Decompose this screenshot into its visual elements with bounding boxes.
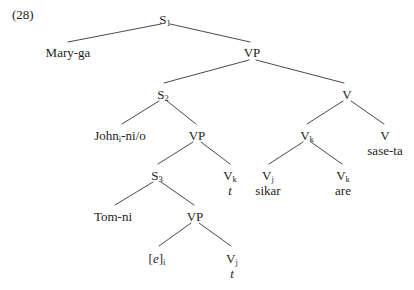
node-terminal-v-sase: sase-ta — [367, 144, 402, 159]
tree-edge-s3-to-vp3 — [161, 182, 194, 205]
node-label-vp3: VP — [187, 209, 204, 224]
tree-edge-v-top-to-v-sase — [351, 101, 384, 124]
tree-node-john: Johni-ni/o — [94, 129, 146, 144]
node-label-empty-e: [e]i — [149, 251, 166, 266]
node-label-vk-mid: Vk — [300, 128, 314, 143]
tree-node-vk-trace: Vkt — [223, 169, 237, 199]
syntax-tree-figure: (28) S1Mary-gaVPS2VJohni-ni/oVPVkVsase-t… — [0, 0, 414, 290]
node-subscript-vk-trace: k — [233, 174, 237, 184]
node-label-vj-sikar: Vj — [262, 168, 274, 183]
node-subscript-s3: 3 — [158, 174, 162, 184]
node-terminal-vk-are: are — [335, 184, 351, 199]
node-label-v-sase: V — [380, 128, 389, 143]
node-label-vk-trace: Vk — [223, 168, 237, 183]
node-label-v-top: V — [342, 87, 351, 102]
tree-node-v-sase: Vsase-ta — [367, 129, 402, 158]
tree-node-v-top: V — [342, 88, 351, 103]
tree-node-vk-mid: Vk — [300, 129, 314, 144]
tree-edge-s2-to-vp2 — [167, 101, 196, 124]
tree-node-empty-e: [e]i — [149, 252, 166, 267]
node-suffix-john: -ni/o — [121, 128, 146, 143]
node-label-vp1: VP — [244, 45, 261, 60]
tree-edge-vp1-to-s2 — [164, 60, 249, 83]
tree-edge-s3-to-tom — [115, 182, 153, 205]
tree-edge-vp2-to-s3 — [158, 142, 193, 164]
node-label-vp2: VP — [189, 128, 206, 143]
tree-edge-vp3-to-vj-trace — [199, 223, 231, 246]
node-label-tom: Tom-ni — [94, 209, 132, 224]
node-subscript-vk-mid: k — [310, 134, 314, 144]
tree-edge-v-top-to-vk-mid — [307, 101, 343, 124]
node-subscript-vj-trace: j — [236, 257, 238, 267]
tree-edge-vp1-to-v-top — [256, 60, 344, 83]
node-label-john: Johni-ni/o — [94, 128, 146, 143]
node-label-s2: S2 — [157, 87, 168, 102]
node-subscript-empty-e: i — [163, 257, 165, 267]
tree-node-mary: Mary-ga — [46, 46, 91, 61]
node-terminal-vj-sikar: sikar — [255, 184, 280, 199]
tree-node-tom: Tom-ni — [94, 210, 132, 225]
node-subscript-vj-sikar: j — [272, 174, 274, 184]
tree-branch-lines — [0, 0, 414, 290]
tree-edge-s1-to-vp1 — [170, 24, 250, 42]
tree-node-s1: S1 — [159, 13, 170, 28]
example-number: (28) — [12, 7, 34, 23]
node-label-vk-are: Vk — [336, 168, 350, 183]
node-label-s1: S1 — [159, 12, 170, 27]
tree-node-s2: S2 — [157, 88, 168, 103]
node-subscript-vk-are: k — [346, 174, 350, 184]
tree-node-vp3: VP — [187, 210, 204, 225]
node-label-s3: S3 — [151, 168, 162, 183]
tree-edge-vk-mid-to-vk-are — [311, 142, 342, 164]
tree-edge-s1-to-mary — [68, 24, 161, 42]
node-subscript-s1: 1 — [166, 18, 170, 28]
tree-edge-s2-to-john — [122, 101, 159, 124]
tree-node-vp2: VP — [189, 129, 206, 144]
tree-edge-vp2-to-vk-trace — [201, 142, 230, 164]
tree-node-vk-are: Vkare — [335, 169, 351, 199]
tree-node-vj-sikar: Vjsikar — [255, 169, 280, 199]
node-subscript-s2: 2 — [164, 93, 168, 103]
node-label-mary: Mary-ga — [46, 45, 91, 60]
node-label-vj-trace: Vj — [226, 251, 238, 266]
tree-node-vj-trace: Vjt — [226, 252, 238, 282]
tree-node-s3: S3 — [151, 169, 162, 184]
tree-edge-vk-mid-to-vj-sikar — [269, 142, 303, 164]
node-terminal-vj-trace: t — [226, 267, 238, 282]
node-terminal-vk-trace: t — [223, 184, 237, 199]
tree-node-vp1: VP — [244, 46, 261, 61]
tree-edge-vp3-to-empty-e — [159, 223, 191, 246]
